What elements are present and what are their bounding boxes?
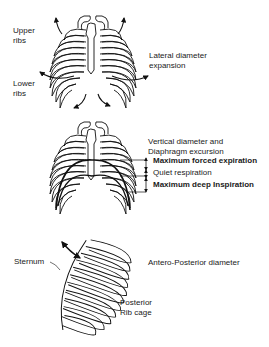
- label-max-forced-expiration: Maximum forced expiration: [153, 156, 257, 166]
- arrow-lower-right-icon: [98, 94, 110, 106]
- label-sternum: Sternum: [14, 257, 44, 267]
- caption-vertical-diameter: Vertical diameter and Diaphragm excursio…: [148, 137, 224, 156]
- label-upper-ribs: Upper ribs: [13, 26, 35, 45]
- sternum-leader-line: [50, 262, 60, 270]
- sternum-arrow-icon: [62, 242, 80, 258]
- rib-cage-frontal-1: [40, 16, 148, 108]
- label-posterior-rib-cage: Posterior Rib cage: [120, 298, 152, 317]
- label-lower-ribs: Lower ribs: [13, 79, 35, 98]
- rib-cage-frontal-2: [50, 122, 146, 214]
- rib-cage-lateral: [48, 234, 142, 347]
- label-quiet-respiration: Quiet respiration: [153, 168, 212, 178]
- arrow-upper-left-icon: [56, 18, 62, 34]
- label-max-deep-inspiration: Maximum deep Inspiration: [153, 180, 254, 190]
- arrow-upper-right-icon: [118, 18, 124, 34]
- diaphragm-quiet-line: [58, 175, 128, 206]
- arrow-lower-left-icon: [74, 94, 86, 108]
- caption-lateral-diameter: Lateral diameter expansion: [149, 51, 207, 70]
- rib-cage-diagram: [0, 0, 269, 347]
- caption-ap-diameter: Antero-Posterior diameter: [148, 258, 240, 268]
